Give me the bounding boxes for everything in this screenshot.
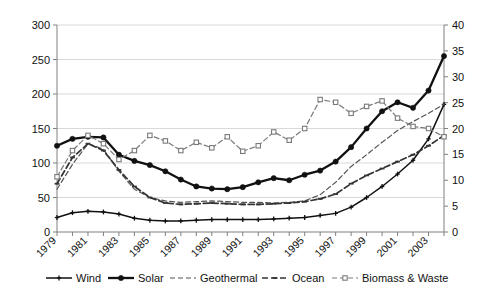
data-point-marker [318,97,322,101]
data-point-marker [147,162,152,167]
y2-tick-label: 20 [452,123,464,135]
data-point-marker [118,275,123,280]
data-point-marker [410,105,415,110]
data-point-marker [194,184,199,189]
legend-label: Ocean [292,272,324,284]
data-point-marker [148,133,152,137]
data-point-marker [442,135,446,139]
data-point-marker [318,168,323,173]
data-point-marker [302,126,306,130]
data-point-marker [426,88,431,93]
y-tick-label: 100 [32,157,50,169]
y2-tick-label: 10 [452,174,464,186]
y-tick-label: 50 [38,192,50,204]
data-point-marker [380,99,384,103]
renewable-energy-line-chart: 050100150200250300 0510152025303540 1979… [0,0,490,300]
data-point-marker [256,144,260,148]
y-tick-label: 200 [32,88,50,100]
data-point-marker [163,139,167,143]
y2-tick-label: 35 [452,45,464,57]
data-point-marker [194,140,198,144]
data-point-marker [333,159,338,164]
data-point-marker [271,176,276,181]
data-point-marker [209,186,214,191]
data-point-marker [379,109,384,114]
legend-label: Solar [138,272,164,284]
chart-canvas: 050100150200250300 0510152025303540 1979… [0,0,490,300]
legend-label: Geothermal [200,272,257,284]
data-point-marker [302,172,307,177]
y2-tick-label: 25 [452,97,464,109]
data-point-marker [225,135,229,139]
data-point-marker [272,130,276,134]
data-point-marker [343,276,347,280]
data-point-marker [364,126,369,131]
data-point-marker [441,53,446,58]
data-point-marker [395,116,399,120]
y2-tick-label: 0 [452,226,458,238]
data-point-marker [117,157,121,161]
data-point-marker [86,133,90,137]
data-point-marker [349,111,353,115]
data-point-marker [240,185,245,190]
data-point-marker [179,148,183,152]
data-point-marker [395,100,400,105]
data-point-marker [241,149,245,153]
data-point-marker [426,126,430,130]
data-point-marker [55,175,59,179]
data-point-marker [349,145,354,150]
y-tick-label: 300 [32,19,50,31]
chart-container: 050100150200250300 0510152025303540 1979… [0,0,490,300]
data-point-marker [411,124,415,128]
y2-tick-label: 40 [452,19,464,31]
data-point-marker [54,143,59,148]
y-tick-label: 150 [32,123,50,135]
data-point-marker [333,100,337,104]
legend-label: Biomass & Waste [362,272,448,284]
data-point-marker [287,178,292,183]
data-point-marker [364,104,368,108]
y2-tick-label: 5 [452,200,458,212]
data-point-marker [225,187,230,192]
data-point-marker [132,148,136,152]
y2-tick-label: 30 [452,71,464,83]
y-tick-label: 250 [32,54,50,66]
data-point-marker [70,148,74,152]
data-point-marker [132,158,137,163]
data-point-marker [210,146,214,150]
data-point-marker [116,152,121,157]
data-point-marker [101,135,106,140]
data-point-marker [256,180,261,185]
data-point-marker [70,136,75,141]
y2-tick-label: 15 [452,148,464,160]
data-point-marker [101,141,105,145]
data-point-marker [287,138,291,142]
data-point-marker [163,169,168,174]
data-point-marker [178,177,183,182]
legend-label: Wind [76,272,101,284]
